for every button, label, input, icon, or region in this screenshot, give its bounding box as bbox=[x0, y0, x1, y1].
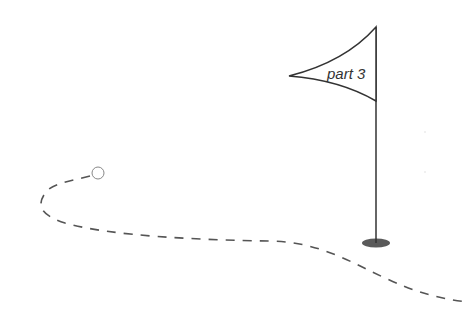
faint-speck bbox=[424, 171, 426, 173]
ball-path-dashed-line bbox=[41, 176, 468, 302]
flag-label: part 3 bbox=[326, 65, 366, 82]
golf-illustration: part 3 bbox=[0, 0, 468, 309]
flag-pennant-icon bbox=[289, 27, 376, 101]
golf-ball-icon bbox=[92, 167, 104, 179]
golf-scene: part 3 bbox=[0, 0, 468, 309]
faint-speck bbox=[424, 131, 426, 133]
